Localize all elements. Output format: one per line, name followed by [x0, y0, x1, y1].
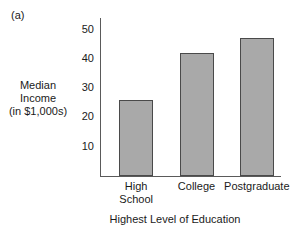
bar-chart-figure: (a) Median Income (in $1,000s) 50 40 30 … — [0, 0, 292, 233]
y-tick-label: 50 — [72, 24, 94, 35]
panel-label: (a) — [11, 9, 24, 22]
y-tick-label: 30 — [72, 82, 94, 93]
y-axis-title-line-1: Median — [2, 79, 74, 92]
bar-high-school — [119, 100, 153, 176]
y-axis-title-line-2: Income — [2, 92, 74, 105]
bar-college — [180, 53, 214, 176]
y-tick-label: 10 — [72, 141, 94, 152]
y-tick-label: 40 — [72, 53, 94, 64]
x-axis-title: Highest Level of Education — [60, 213, 290, 226]
y-axis-title-line-3: (in $1,000s) — [2, 105, 74, 118]
y-tick-label: 20 — [72, 111, 94, 122]
x-tick-label-postgraduate: Postgraduate — [211, 180, 292, 193]
bars-layer — [100, 18, 281, 176]
x-axis-line — [100, 176, 281, 177]
y-axis-title: Median Income (in $1,000s) — [2, 79, 74, 118]
bar-postgraduate — [240, 38, 274, 176]
